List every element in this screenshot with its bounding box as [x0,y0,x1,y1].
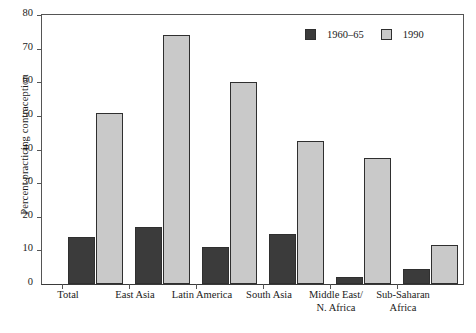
bar-sub-saharan-1990 [431,245,458,284]
legend-item-1990: 1990 [381,29,424,40]
plot-area: 80 70 60 50 40 30 20 10 [41,14,464,285]
y-tick-mark [37,150,42,151]
y-tick-mark [37,15,42,16]
y-tick-label-20: 20 [23,209,34,220]
bar-total-1960-65 [68,237,95,284]
legend-label-1990: 1990 [403,29,424,40]
bar-latin-america-1960-65 [202,247,229,284]
bar-east-asia-1960-65 [135,227,162,284]
dark-swatch-icon [305,29,316,40]
y-tick-mark [37,250,42,251]
y-tick-mark [37,49,42,50]
y-tick-label-60: 60 [23,74,34,85]
y-tick-label-40: 40 [23,142,34,153]
y-tick-label-30: 30 [23,175,34,186]
bar-east-asia-1990 [163,35,190,284]
y-tick-label-10: 10 [23,242,34,253]
y-tick-label-0: 0 [28,276,33,287]
y-tick-label-70: 70 [23,41,34,52]
bar-latin-america-1990 [230,82,257,284]
x-label-line1: Sub-Saharan [348,289,458,302]
y-tick-label-50: 50 [23,108,34,119]
chart-legend: 1960–65 1990 [305,29,424,40]
y-tick-label-80: 80 [23,7,34,18]
bar-south-asia-1960-65 [269,234,296,284]
bar-south-asia-1990 [297,141,324,284]
y-tick-mark [37,82,42,83]
bar-middle-east-1960-65 [336,277,363,284]
y-tick-mark [37,217,42,218]
x-axis-label-sub-saharan-africa: Sub-Saharan Africa [348,289,458,314]
y-tick-mark [37,183,42,184]
bar-total-1990 [96,113,123,284]
y-tick-mark [37,116,42,117]
bar-chart-figure: Percent practicing contraception 80 70 6… [0,0,476,333]
legend-label-1960-65: 1960–65 [327,29,364,40]
legend-item-1960-65: 1960–65 [305,29,364,40]
bar-middle-east-1990 [364,158,391,284]
x-label-line2: Africa [348,302,458,315]
light-swatch-icon [381,29,392,40]
bar-sub-saharan-1960-65 [403,269,430,284]
